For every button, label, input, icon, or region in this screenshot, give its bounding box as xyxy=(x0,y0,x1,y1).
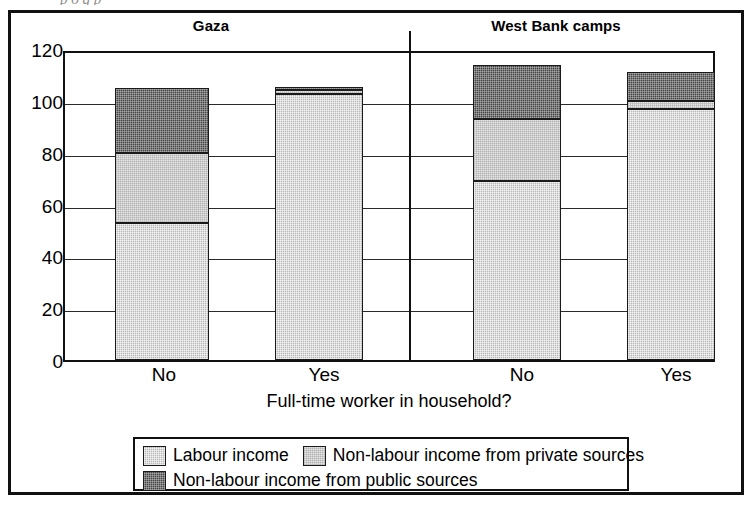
bar-segment-labour-income[interactable] xyxy=(115,223,209,360)
y-tick-120: 120 xyxy=(19,41,63,60)
bar-segment-non-labour-public[interactable] xyxy=(473,65,561,119)
bar-segment-non-labour-public[interactable] xyxy=(627,72,715,101)
legend-item-non-labour-private[interactable]: Non-labour income from private sources xyxy=(303,445,644,466)
legend-swatch-non-labour-public xyxy=(143,471,166,491)
chart-legend: Labour income Non-labour income from pri… xyxy=(133,437,629,491)
panel-divider xyxy=(409,31,411,360)
bar-segment-labour-income[interactable] xyxy=(627,109,715,360)
y-tick-60: 60 xyxy=(19,197,63,216)
bar-west-bank-camps-yes[interactable] xyxy=(627,72,715,360)
legend-item-labour-income[interactable]: Labour income xyxy=(143,445,289,466)
legend-label-non-labour-private: Non-labour income from private sources xyxy=(333,445,644,466)
bar-west-bank-camps-no[interactable] xyxy=(473,65,561,360)
panel-title-gaza: Gaza xyxy=(41,17,381,34)
y-tick-0: 0 xyxy=(19,352,63,371)
x-axis-labels: No Yes No Yes xyxy=(63,365,715,391)
legend-label-labour-income: Labour income xyxy=(173,445,289,466)
bar-segment-labour-income[interactable] xyxy=(275,94,363,360)
x-label-gaza-yes: Yes xyxy=(279,365,369,386)
chart-page: p o g p Gaza West Bank camps 120 100 80 … xyxy=(0,0,754,505)
page-text-remnant: p o g p xyxy=(60,0,360,5)
y-tick-20: 20 xyxy=(19,300,63,319)
plot-area xyxy=(63,51,715,362)
bar-segment-non-labour-public[interactable] xyxy=(115,88,209,153)
panel-title-west-bank-camps: West Bank camps xyxy=(391,17,721,34)
bar-segment-non-labour-private[interactable] xyxy=(473,119,561,181)
legend-row-2: Non-labour income from public sources xyxy=(143,468,621,493)
legend-swatch-labour-income xyxy=(143,446,166,466)
bar-segment-non-labour-private[interactable] xyxy=(115,153,209,223)
legend-swatch-non-labour-private xyxy=(303,446,326,466)
bar-segment-non-labour-public[interactable] xyxy=(275,87,363,91)
bar-segment-non-labour-private[interactable] xyxy=(627,101,715,109)
bar-gaza-no[interactable] xyxy=(115,88,209,360)
y-tick-100: 100 xyxy=(19,93,63,112)
y-tick-80: 80 xyxy=(19,145,63,164)
x-axis-title: Full-time worker in household? xyxy=(63,391,715,412)
bar-gaza-yes[interactable] xyxy=(275,87,363,360)
x-label-gaza-no: No xyxy=(119,365,209,386)
x-label-wb-yes: Yes xyxy=(631,365,721,386)
legend-item-non-labour-public[interactable]: Non-labour income from public sources xyxy=(143,470,477,491)
figure-frame: Gaza West Bank camps 120 100 80 60 40 20… xyxy=(8,10,744,495)
bar-segment-labour-income[interactable] xyxy=(473,181,561,360)
legend-row-1: Labour income Non-labour income from pri… xyxy=(143,443,621,468)
bar-segment-non-labour-private[interactable] xyxy=(275,90,363,94)
x-label-wb-no: No xyxy=(477,365,567,386)
y-tick-40: 40 xyxy=(19,248,63,267)
y-axis-ticks: 120 100 80 60 40 20 0 xyxy=(11,51,63,362)
panel-titles: Gaza West Bank camps xyxy=(11,13,747,41)
legend-label-non-labour-public: Non-labour income from public sources xyxy=(173,470,477,491)
